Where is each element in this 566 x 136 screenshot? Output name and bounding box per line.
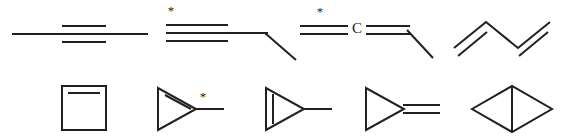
chemical-structure-sheet: but-2-yne * pent-1-yne C *	[0, 0, 566, 136]
structure-buta-1-3-diene: buta-1,3-diene	[440, 0, 566, 62]
structure-allene: C * buta-1,2-diene	[296, 0, 436, 62]
bond-skeleton	[454, 22, 550, 56]
bond-skeleton	[266, 88, 332, 130]
atom-label-central-carbon: C	[352, 20, 362, 36]
structure-cyclobutene: cyclobutene	[52, 80, 122, 136]
bond-skeleton	[158, 88, 224, 130]
structure-methylcyclopropene: 1-methylcyclopropene	[256, 80, 346, 136]
bond-skeleton	[366, 88, 440, 130]
structure-methylcyclopropene-starred: * 1-methylcyclopropene	[148, 80, 238, 136]
bond-skeleton	[166, 25, 296, 60]
star-marker-cyclopropene: *	[200, 89, 207, 104]
bond-skeleton	[472, 86, 552, 132]
star-marker-pentyne: *	[168, 3, 175, 18]
bond-skeleton	[62, 86, 106, 130]
bond-skeleton	[12, 26, 148, 42]
structure-pent-1-yne: * pent-1-yne	[160, 0, 305, 62]
bond-skeleton	[300, 26, 433, 58]
star-marker-allene: *	[317, 4, 324, 19]
structure-methylenecyclopropane: methylenecyclopropane	[358, 80, 454, 136]
structure-bicyclobutane: bicyclo[1.1.0]butane	[462, 80, 566, 136]
structure-but-2-yne: but-2-yne	[0, 0, 160, 62]
